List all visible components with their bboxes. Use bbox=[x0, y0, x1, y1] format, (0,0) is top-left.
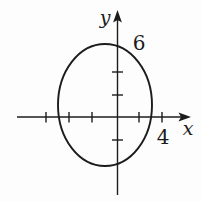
x-tick-label-4: 4 bbox=[157, 125, 170, 149]
x-axis-label: x bbox=[183, 117, 194, 139]
math-figure-canvas: y x 6 4 bbox=[0, 0, 201, 202]
y-axis bbox=[113, 10, 122, 195]
ellipse-curve bbox=[58, 44, 152, 166]
ellipse-graph: y x 6 4 bbox=[0, 0, 201, 202]
x-axis bbox=[17, 113, 191, 122]
y-axis-label: y bbox=[99, 6, 111, 28]
y-tick-label-6: 6 bbox=[133, 31, 146, 55]
